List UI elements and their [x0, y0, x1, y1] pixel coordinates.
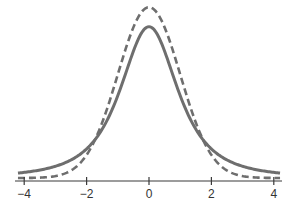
x-axis: −4−2024 — [15, 177, 282, 201]
x-tick-label: 0 — [146, 187, 153, 201]
plot-area — [18, 7, 280, 178]
solid-curve-heavy-tailed — [18, 27, 280, 173]
x-tick-label: 4 — [270, 187, 277, 201]
x-tick-label: −2 — [80, 187, 94, 201]
density-comparison-chart: −4−2024 — [0, 0, 295, 205]
x-tick-label: −4 — [17, 187, 31, 201]
dashed-curve-normal — [18, 7, 280, 178]
x-tick-label: 2 — [208, 187, 215, 201]
